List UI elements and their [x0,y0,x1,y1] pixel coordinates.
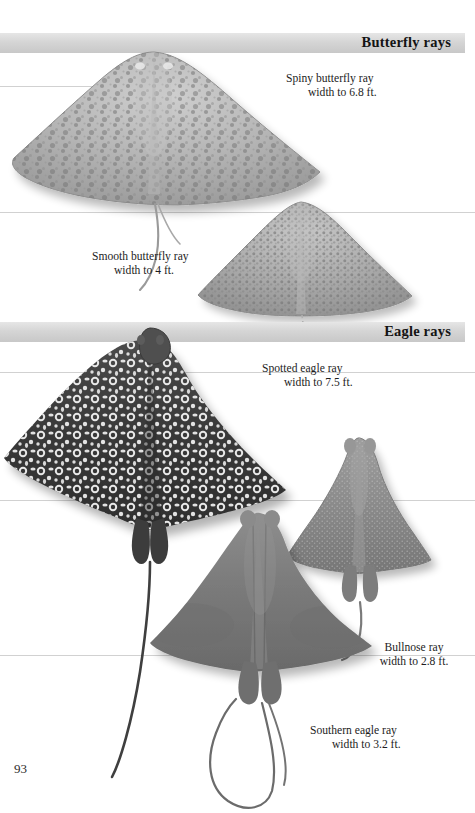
caption-southern-eagle-ray: Southern eagle ray width to 3.2 ft. [310,724,401,751]
caption-spotted-eagle-ray: Spotted eagle ray width to 7.5 ft. [262,362,353,389]
caption-smooth-butterfly-ray: Smooth butterfly ray width to 4 ft. [92,250,189,277]
book-page: Butterfly rays [0,0,475,813]
specimen-name: Spiny butterfly ray [286,72,377,86]
specimen-name: Southern eagle ray [310,724,401,738]
specimen-measure: width to 4 ft. [92,264,189,278]
illustration-smooth-butterfly-ray [196,196,416,336]
specimen-name: Spotted eagle ray [262,362,353,376]
illustration-southern-eagle-ray [150,505,380,805]
section-title-eagle-rays: Eagle rays [384,323,451,340]
specimen-measure: width to 6.8 ft. [286,86,377,100]
section-title-butterfly-rays: Butterfly rays [362,34,451,51]
specimen-measure: width to 7.5 ft. [262,376,353,390]
caption-spiny-butterfly-ray: Spiny butterfly ray width to 6.8 ft. [286,72,377,99]
specimen-name: Smooth butterfly ray [92,250,189,264]
specimen-measure: width to 3.2 ft. [310,738,401,752]
page-number: 93 [14,761,27,777]
